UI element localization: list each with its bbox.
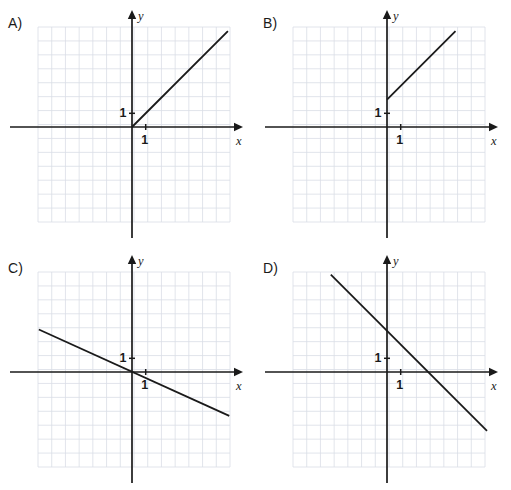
x-axis-label: x bbox=[235, 134, 242, 148]
y-axis-arrow-icon bbox=[383, 255, 391, 264]
graph-panel-b[interactable]: B)xy11 bbox=[255, 0, 510, 245]
plotted-line-a bbox=[132, 31, 228, 127]
grid-lines bbox=[293, 272, 485, 467]
coordinate-plane-a: xy11 bbox=[0, 0, 255, 245]
x-axis-label: x bbox=[490, 379, 497, 393]
grid-lines bbox=[293, 27, 485, 222]
y-unit-label: 1 bbox=[120, 106, 127, 120]
worksheet-canvas: A)xy11B)xy11C)xy11D)xy11 bbox=[0, 0, 511, 490]
axes bbox=[10, 10, 243, 238]
y-unit-label: 1 bbox=[120, 351, 127, 365]
x-axis-label: x bbox=[235, 379, 242, 393]
x-axis-arrow-icon bbox=[234, 123, 243, 131]
x-unit-label: 1 bbox=[396, 378, 403, 392]
x-axis-arrow-icon bbox=[234, 368, 243, 376]
y-axis-arrow-icon bbox=[128, 255, 136, 264]
y-axis-label: y bbox=[391, 9, 399, 23]
graph-panel-d[interactable]: D)xy11 bbox=[255, 245, 510, 490]
x-axis-label: x bbox=[490, 134, 497, 148]
x-unit-label: 1 bbox=[141, 133, 148, 147]
coordinate-plane-c: xy11 bbox=[0, 245, 255, 490]
plotted-line-b bbox=[387, 31, 456, 100]
y-unit-label: 1 bbox=[375, 106, 382, 120]
x-axis-arrow-icon bbox=[489, 123, 498, 131]
axes bbox=[265, 10, 498, 238]
y-axis-label: y bbox=[136, 9, 144, 23]
x-unit-label: 1 bbox=[141, 378, 148, 392]
y-axis-label: y bbox=[391, 254, 399, 268]
x-axis-arrow-icon bbox=[489, 368, 498, 376]
y-axis-label: y bbox=[136, 254, 144, 268]
axes bbox=[265, 255, 498, 483]
x-unit-label: 1 bbox=[396, 133, 403, 147]
coordinate-plane-b: xy11 bbox=[255, 0, 510, 245]
grid-lines bbox=[38, 272, 230, 467]
y-axis-arrow-icon bbox=[383, 10, 391, 19]
y-unit-label: 1 bbox=[375, 351, 382, 365]
graph-panel-c[interactable]: C)xy11 bbox=[0, 245, 255, 490]
plotted-line-d bbox=[331, 275, 487, 431]
graph-panel-a[interactable]: A)xy11 bbox=[0, 0, 255, 245]
coordinate-plane-d: xy11 bbox=[255, 245, 510, 490]
y-axis-arrow-icon bbox=[128, 10, 136, 19]
